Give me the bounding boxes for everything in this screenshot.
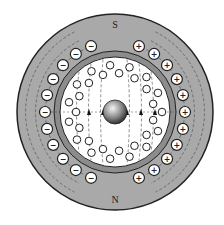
rotor-conductor xyxy=(158,108,166,116)
rotor-conductor xyxy=(149,116,157,124)
positive-sign: + xyxy=(136,42,143,51)
rotor-conductor xyxy=(106,155,114,163)
rotor-conductor xyxy=(85,79,93,87)
positive-sign: + xyxy=(182,108,189,117)
shaft xyxy=(103,100,127,124)
positive-sign: + xyxy=(151,166,158,175)
negative-sign: − xyxy=(50,141,57,150)
rotor-conductor xyxy=(106,61,114,69)
rotor-conductor xyxy=(143,73,151,81)
negative-sign: − xyxy=(50,75,57,84)
rotor-conductor xyxy=(126,153,134,161)
negative-sign: − xyxy=(60,155,67,164)
rotor-conductor xyxy=(76,92,84,100)
negative-sign: − xyxy=(44,91,51,100)
pole-label-north: N xyxy=(111,194,118,205)
rotor-conductor xyxy=(154,89,162,97)
negative-sign: − xyxy=(73,50,80,59)
rotor-conductor xyxy=(99,71,107,79)
rotor-conductor xyxy=(88,67,96,75)
negative-sign: − xyxy=(88,174,95,183)
negative-sign: − xyxy=(60,61,67,70)
positive-sign: + xyxy=(173,75,180,84)
rotor-conductor xyxy=(73,81,81,89)
rotor-conductor xyxy=(131,74,139,82)
positive-sign: + xyxy=(173,141,180,150)
rotor-conductor xyxy=(143,143,151,151)
rotor-conductor xyxy=(72,108,80,116)
rotor-conductor xyxy=(85,137,93,145)
pole-label-south: S xyxy=(112,19,118,30)
positive-sign: + xyxy=(136,174,143,183)
rotor-conductor xyxy=(65,118,73,126)
positive-sign: + xyxy=(164,155,171,164)
rotor-conductor xyxy=(131,142,139,150)
rotor-conductor xyxy=(143,131,151,139)
rotor-conductor xyxy=(154,127,162,135)
negative-sign: − xyxy=(44,125,51,134)
rotor-conductor xyxy=(115,69,123,77)
positive-sign: + xyxy=(180,91,187,100)
negative-sign: − xyxy=(42,108,49,117)
positive-sign: + xyxy=(151,50,158,59)
negative-sign: − xyxy=(88,42,95,51)
rotor-conductor xyxy=(149,100,157,108)
rotor-conductor xyxy=(76,124,84,132)
positive-sign: + xyxy=(164,61,171,70)
rotor-conductor xyxy=(73,136,81,144)
negative-sign: − xyxy=(73,166,80,175)
positive-sign: + xyxy=(180,125,187,134)
rotor-conductor xyxy=(88,149,96,157)
rotor-conductor xyxy=(65,98,73,106)
rotor-conductor xyxy=(115,147,123,155)
rotor-conductor xyxy=(143,85,151,93)
rotor-conductor xyxy=(126,64,134,72)
machine-cross-section-diagram: −+−+−+−+−+−+−+−+−+−+−+SN xyxy=(0,0,224,225)
rotor-conductor xyxy=(99,145,107,153)
